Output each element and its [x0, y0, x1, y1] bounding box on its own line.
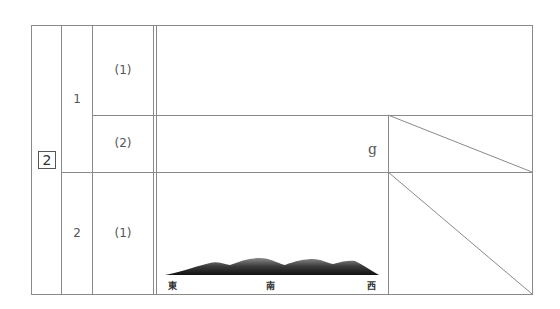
direction-west-label: 西 [367, 279, 376, 292]
answer-field-1-1[interactable] [157, 26, 532, 115]
answer-field-1-2[interactable] [157, 116, 388, 172]
unit-grams: g [368, 141, 377, 157]
direction-south-label: 南 [266, 279, 275, 292]
part-2-label: 2 [73, 226, 81, 240]
subpart-1-2-label: (2) [115, 136, 132, 150]
subpart-2-1-label: (1) [115, 226, 132, 240]
subpart-1-1-label: (1) [115, 63, 132, 77]
answer-field-2-1[interactable] [157, 173, 388, 259]
direction-east-label: 東 [168, 279, 177, 292]
part-1-label: 1 [73, 92, 81, 106]
mountain-silhouette-figure [165, 255, 380, 277]
question-number-badge: 2 [38, 151, 56, 169]
